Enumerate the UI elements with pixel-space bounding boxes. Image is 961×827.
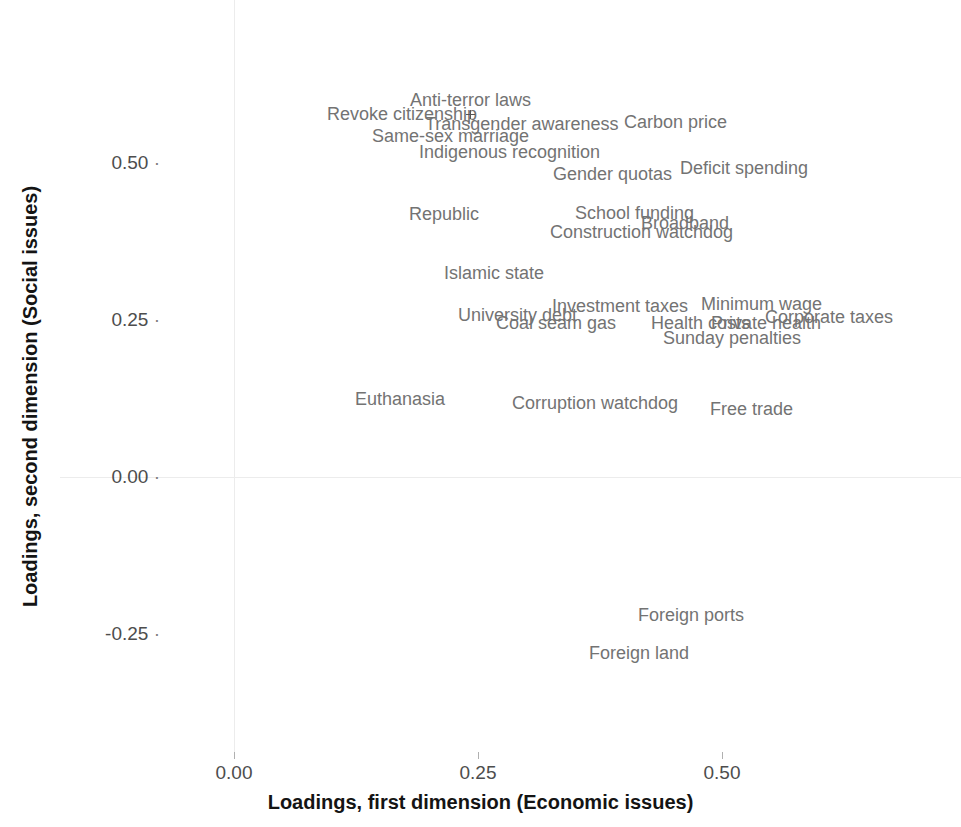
y-axis-title: Loadings, second dimension (Social issue… (19, 12, 42, 782)
point-label: Foreign ports (638, 606, 744, 624)
x-tick-label: 0.00 (189, 762, 279, 784)
point-label: Corruption watchdog (512, 394, 678, 412)
point-label: Carbon price (624, 113, 727, 131)
y-tick-mark: · (148, 466, 160, 487)
scatter-plot-figure: Anti-terror lawsRevoke citizenshipTransg… (0, 0, 961, 827)
x-axis-title: Loadings, first dimension (Economic issu… (0, 791, 961, 814)
gridline-y-zero (60, 477, 961, 478)
y-tick-label: 0.00 · (40, 466, 160, 488)
y-tick-text: 0.50 (111, 152, 148, 173)
x-tick-label: 0.50 (677, 762, 767, 784)
point-label: Gender quotas (553, 165, 672, 183)
point-label: Foreign land (589, 644, 689, 662)
x-tick-mark (478, 752, 479, 759)
x-tick-label: 0.25 (433, 762, 523, 784)
x-tick-mark (234, 752, 235, 759)
point-label: Euthanasia (355, 390, 445, 408)
point-label: Islamic state (444, 264, 544, 282)
point-label: Construction watchdog (550, 223, 733, 241)
y-tick-mark: · (148, 152, 160, 173)
y-tick-mark: · (148, 623, 160, 644)
point-label: Coal seam gas (496, 314, 616, 332)
y-tick-text: 0.25 (111, 309, 148, 330)
point-label: Deficit spending (680, 159, 808, 177)
y-tick-label: 0.25 · (40, 309, 160, 331)
y-tick-label: 0.50 · (40, 152, 160, 174)
y-tick-text: 0.00 (111, 466, 148, 487)
y-tick-text: -0.25 (105, 623, 148, 644)
gridline-x-zero (234, 0, 235, 752)
point-marker (466, 110, 475, 119)
point-label: Sunday penalties (663, 329, 801, 347)
y-tick-mark: · (148, 309, 160, 330)
point-label: Republic (409, 205, 479, 223)
x-tick-mark (722, 752, 723, 759)
point-label: Indigenous recognition (419, 143, 600, 161)
y-tick-label: -0.25 · (40, 623, 160, 645)
point-label: Free trade (710, 400, 793, 418)
